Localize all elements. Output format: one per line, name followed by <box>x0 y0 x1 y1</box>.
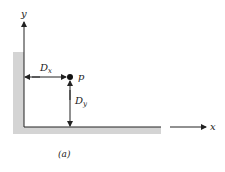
diagram-canvas: y x Dx Dy p (a) <box>0 0 225 172</box>
point-label: p <box>78 71 85 82</box>
y-axis: y <box>20 8 27 52</box>
x-axis: x <box>170 121 216 132</box>
figure-caption: (a) <box>58 149 71 159</box>
wall-shading <box>13 52 161 134</box>
dx-dimension: Dx <box>25 62 66 77</box>
point-marker <box>67 74 73 80</box>
dx-label: Dx <box>39 62 52 75</box>
dy-label: Dy <box>74 95 88 108</box>
x-axis-label: x <box>210 121 216 132</box>
dy-dimension: Dy <box>70 81 88 126</box>
point-p: p <box>67 71 85 82</box>
y-axis-label: y <box>20 8 27 19</box>
